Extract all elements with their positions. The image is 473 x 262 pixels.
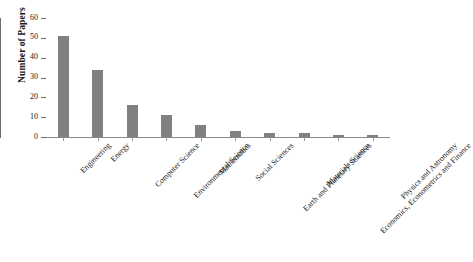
y-tick-label: 60: [30, 13, 38, 22]
y-tick-label: 30: [30, 72, 38, 81]
x-tick-label-text: Mathematics: [217, 141, 253, 177]
y-axis-title: Number of Papers: [17, 0, 27, 105]
x-tick-label-text: Economics, Econometrics and Finance: [379, 141, 473, 235]
x-tick-label-text: Materials Science: [325, 141, 372, 188]
x-tick: [304, 138, 305, 141]
x-tick: [373, 138, 374, 141]
x-tick-label: Computer Science: [153, 141, 201, 189]
bar: [127, 105, 138, 137]
x-tick: [98, 138, 99, 141]
x-tick-label-text: Social Sciences: [254, 141, 296, 183]
x-tick-label-text: Engineering: [79, 141, 113, 175]
x-tick-label: Social Sciences: [254, 141, 296, 183]
x-tick: [270, 138, 271, 141]
x-tick: [201, 138, 202, 141]
x-tick-label: Economics, Econometrics and Finance: [379, 141, 473, 235]
x-tick-label: Engineering: [79, 141, 113, 175]
bar: [195, 125, 206, 137]
y-tick-label: 50: [30, 32, 38, 41]
y-tick-label: 20: [30, 92, 38, 101]
y-tick-label: 0: [34, 132, 38, 141]
x-tick: [132, 138, 133, 141]
x-tick: [235, 138, 236, 141]
bars-layer: [46, 18, 390, 137]
x-tick-label-text: Computer Science: [153, 141, 201, 189]
y-axis-line: [0, 18, 1, 138]
y-tick-label: 10: [30, 112, 38, 121]
bar: [92, 70, 103, 137]
x-tick-label-text: Energy: [108, 141, 131, 164]
bar: [58, 36, 69, 137]
bar: [264, 133, 275, 137]
x-tick: [338, 138, 339, 141]
x-tick: [166, 138, 167, 141]
bar: [333, 135, 344, 137]
x-tick-label: Mathematics: [217, 141, 253, 177]
x-tick-label: Energy: [108, 141, 131, 164]
y-tick-label: 40: [30, 52, 38, 61]
bar: [230, 131, 241, 137]
x-tick-label: Materials Science: [325, 141, 372, 188]
x-tick-label-text: Physics and Astronomy: [399, 141, 459, 201]
x-tick-label: Physics and Astronomy: [399, 141, 459, 201]
bar: [299, 133, 310, 137]
x-tick: [63, 138, 64, 141]
y-tick: 0: [41, 137, 46, 138]
bar: [161, 115, 172, 137]
bar: [367, 135, 378, 137]
